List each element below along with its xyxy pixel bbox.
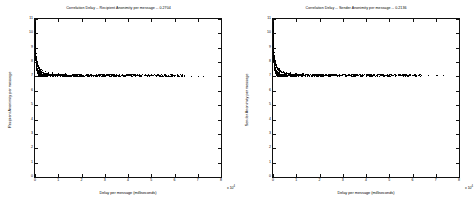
scatter-point xyxy=(273,56,274,57)
scatter-point xyxy=(273,25,274,26)
scatter-point xyxy=(285,74,286,75)
scatter-point xyxy=(387,75,388,76)
scatter-point xyxy=(387,76,388,77)
scatter-point xyxy=(35,38,36,39)
scatter-point xyxy=(285,75,286,76)
scatter-point xyxy=(273,27,274,28)
scatter-point xyxy=(35,25,36,26)
scatter-point xyxy=(150,75,151,76)
scatter-point xyxy=(55,74,56,75)
scatter-point xyxy=(37,69,38,70)
scatter-point xyxy=(37,70,38,71)
scatter-point xyxy=(151,75,152,76)
scatter-point xyxy=(115,76,116,77)
scatter-point xyxy=(275,70,276,71)
scatter-point xyxy=(289,73,290,74)
scatter-point xyxy=(278,74,279,75)
scatter-point xyxy=(39,74,40,75)
scatter-point xyxy=(40,72,41,73)
scatter-point xyxy=(273,28,274,29)
scatter-point xyxy=(294,75,295,76)
scatter-point xyxy=(273,25,274,26)
scatter-point xyxy=(406,75,407,76)
scatter-point xyxy=(41,72,42,73)
scatter-point xyxy=(35,29,36,30)
scatter-point xyxy=(342,75,343,76)
scatter-point xyxy=(35,30,36,31)
y-tick-label: 4 xyxy=(265,118,271,122)
scatter-point xyxy=(87,76,88,77)
scatter-point xyxy=(150,75,151,76)
scatter-point xyxy=(37,70,38,71)
scatter-point xyxy=(273,36,274,37)
scatter-point xyxy=(328,76,329,77)
scatter-point xyxy=(38,71,39,72)
scatter-point xyxy=(276,72,277,73)
scatter-point xyxy=(106,74,107,75)
scatter-point xyxy=(273,22,274,23)
scatter-point xyxy=(273,34,274,35)
scatter-point xyxy=(58,75,59,76)
scatter-point xyxy=(111,75,112,76)
scatter-point xyxy=(37,68,38,69)
scatter-point xyxy=(116,74,117,75)
scatter-point xyxy=(35,51,36,52)
scatter-point xyxy=(273,27,274,28)
scatter-point xyxy=(273,28,274,29)
scatter-point xyxy=(273,22,274,23)
scatter-point xyxy=(112,75,113,76)
scatter-point xyxy=(273,56,274,57)
scatter-point xyxy=(39,72,40,73)
scatter-point xyxy=(140,75,141,76)
scatter-point xyxy=(273,34,274,35)
scatter-point xyxy=(35,37,36,38)
scatter-point xyxy=(35,28,36,29)
x-tick xyxy=(296,174,297,177)
scatter-point xyxy=(39,73,40,74)
scatter-point xyxy=(37,72,38,73)
scatter-point xyxy=(35,35,36,36)
scatter-point xyxy=(362,76,363,77)
scatter-point xyxy=(38,73,39,74)
scatter-point xyxy=(273,41,274,42)
scatter-point xyxy=(35,26,36,27)
scatter-point xyxy=(316,76,317,77)
scatter-point xyxy=(35,37,36,38)
scatter-point xyxy=(49,75,50,76)
scatter-point xyxy=(310,74,311,75)
scatter-point xyxy=(292,76,293,77)
scatter-point xyxy=(276,71,277,72)
scatter-point xyxy=(37,69,38,70)
scatter-point xyxy=(273,55,274,56)
scatter-point xyxy=(277,74,278,75)
scatter-point xyxy=(273,44,274,45)
scatter-point xyxy=(35,26,36,27)
scatter-point xyxy=(275,73,276,74)
scatter-point xyxy=(316,75,317,76)
scatter-point xyxy=(273,24,274,25)
scatter-point xyxy=(35,29,36,30)
scatter-point xyxy=(353,75,354,76)
scatter-point xyxy=(273,26,274,27)
scatter-point xyxy=(38,73,39,74)
scatter-point xyxy=(73,74,74,75)
scatter-point xyxy=(273,25,274,26)
scatter-point xyxy=(274,65,275,66)
scatter-point xyxy=(275,72,276,73)
scatter-point xyxy=(39,72,40,73)
scatter-point xyxy=(35,26,36,27)
scatter-point xyxy=(35,36,36,37)
scatter-point xyxy=(382,75,383,76)
scatter-point xyxy=(37,70,38,71)
scatter-point xyxy=(273,22,274,23)
scatter-point xyxy=(49,75,50,76)
scatter-point xyxy=(273,43,274,44)
scatter-point xyxy=(122,75,123,76)
scatter-point xyxy=(39,72,40,73)
scatter-point xyxy=(275,70,276,71)
scatter-point xyxy=(39,73,40,74)
scatter-point xyxy=(105,75,106,76)
scatter-point xyxy=(273,42,274,43)
scatter-point xyxy=(273,25,274,26)
scatter-point xyxy=(402,75,403,76)
